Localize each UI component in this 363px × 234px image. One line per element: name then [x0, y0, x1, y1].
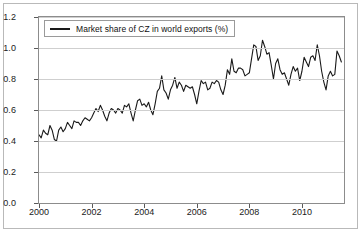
- gridline-0.2: [39, 172, 344, 173]
- x-tick-label-2006: 2006: [187, 207, 207, 217]
- x-tick-label-2008: 2008: [239, 207, 259, 217]
- y-tick-label-1.2: 1.2: [0, 12, 16, 22]
- gridline-0.6: [39, 110, 344, 111]
- y-tick-label-0.8: 0.8: [0, 74, 16, 84]
- chart-legend: Market share of CZ in world exports (%): [44, 20, 235, 37]
- legend-label: Market share of CZ in world exports (%): [76, 24, 228, 34]
- plot-area: [38, 16, 345, 204]
- y-tick-label-0.0: 0.0: [0, 198, 16, 208]
- y-tick-label-0.6: 0.6: [0, 105, 16, 115]
- chart-figure: 0.00.20.40.60.81.01.2 200020022004200620…: [0, 0, 363, 234]
- x-tick-label-2000: 2000: [29, 207, 49, 217]
- y-tick-label-1.0: 1.0: [0, 43, 16, 53]
- x-tick-label-2010: 2010: [292, 207, 312, 217]
- gridline-1.0: [39, 48, 344, 49]
- y-tick-label-0.2: 0.2: [0, 167, 16, 177]
- legend-line-swatch: [50, 28, 70, 30]
- gridline-0.8: [39, 79, 344, 80]
- gridline-1.2: [39, 17, 344, 18]
- gridline-0.4: [39, 141, 344, 142]
- y-tick-label-0.4: 0.4: [0, 136, 16, 146]
- x-tick-label-2004: 2004: [134, 207, 154, 217]
- x-tick-label-2002: 2002: [82, 207, 102, 217]
